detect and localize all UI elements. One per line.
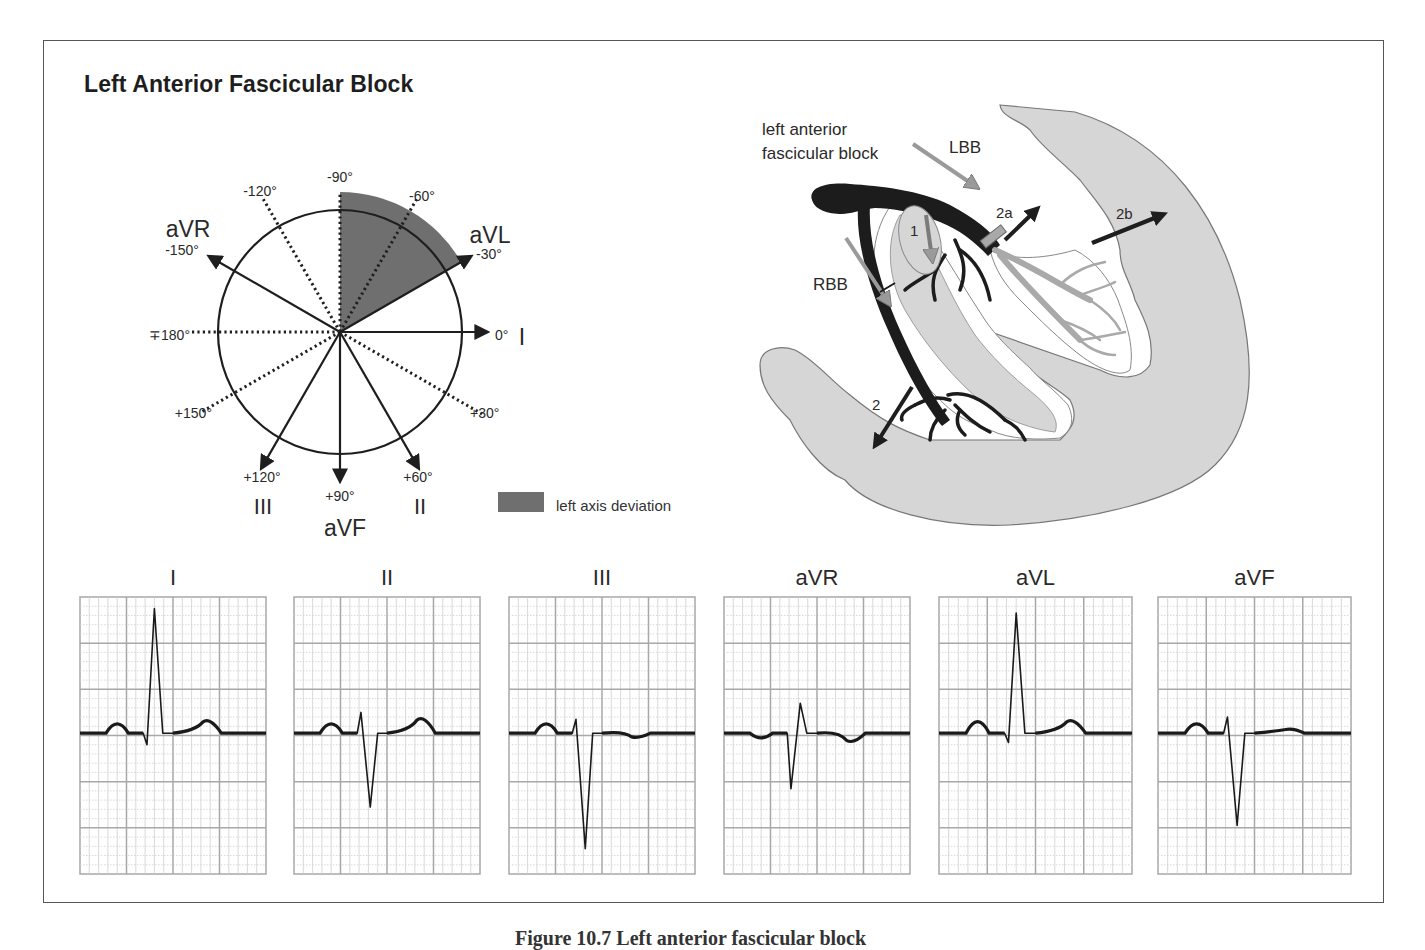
ecg-strip-I bbox=[80, 597, 266, 874]
ecg-strip-II bbox=[294, 597, 480, 874]
figure-caption: Figure 10.7 Left anterior fascicular blo… bbox=[515, 927, 866, 950]
ecg-strip-aVF bbox=[1158, 597, 1351, 874]
ecg-strip-III bbox=[509, 597, 695, 874]
ecg-strip-aVR bbox=[724, 597, 910, 874]
ecg-strip-aVL bbox=[939, 597, 1132, 874]
